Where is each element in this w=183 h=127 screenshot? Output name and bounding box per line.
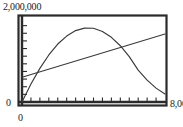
graph-plot: 2,000,000 0 0 8,000 bbox=[0, 0, 183, 127]
plot-canvas bbox=[0, 0, 183, 127]
plot-frame bbox=[19, 16, 167, 106]
